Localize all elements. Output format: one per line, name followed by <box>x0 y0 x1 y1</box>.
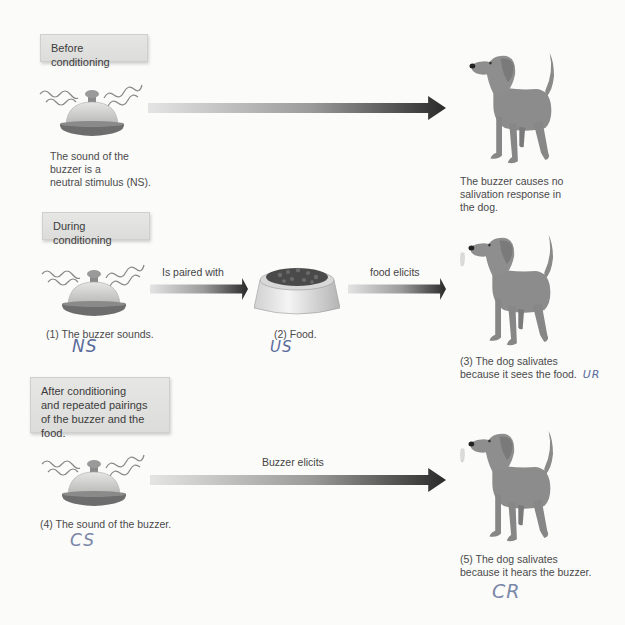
arrow-during-1 <box>150 278 248 300</box>
annotation-ns: NS <box>72 336 98 356</box>
bell-icon-before <box>32 72 152 142</box>
drool-icon-during <box>459 252 469 268</box>
bell-caption-during: (1) The buzzer sounds. <box>46 328 154 341</box>
dog-caption-before: The buzzer causes no salivation response… <box>460 175 563 214</box>
arrow-label-buzzer-elicits: Buzzer elicits <box>262 456 324 468</box>
annotation-cs: CS <box>70 530 95 550</box>
bell-icon-after <box>34 442 154 512</box>
arrow-label-food-elicits: food elicits <box>370 266 420 278</box>
dog-illustration-before <box>455 40 575 170</box>
food-bowl-illustration <box>254 258 340 320</box>
arrow-before <box>148 96 446 120</box>
dog-illustration-during <box>454 222 574 352</box>
drool-icon-after <box>459 448 469 464</box>
bell-caption-after: (4) The sound of the buzzer. <box>40 518 171 531</box>
dog-illustration-after <box>454 418 574 548</box>
stage-after-title-box: After conditioning and repeated pairings… <box>30 377 170 433</box>
arrow-label-paired: Is paired with <box>162 266 224 278</box>
bell-icon-during <box>34 252 154 322</box>
stage-during-title: During conditioning <box>53 220 112 246</box>
stage-during-title-box: During conditioning <box>42 212 150 240</box>
annotation-cr: CR <box>492 580 520 602</box>
dog-caption-after: (5) The dog salivates because it hears t… <box>460 553 591 579</box>
arrow-after <box>150 468 446 492</box>
annotation-us: US <box>270 338 293 356</box>
stage-before-title-box: Before conditioning <box>40 34 148 62</box>
bell-caption-before: The sound of the buzzer is a neutral sti… <box>50 150 151 189</box>
stage-before-title: Before conditioning <box>51 42 110 68</box>
arrow-during-2 <box>348 278 446 300</box>
dog-caption-during: (3) The dog salivates because it sees th… <box>460 355 600 381</box>
annotation-ur: UR <box>583 368 601 381</box>
